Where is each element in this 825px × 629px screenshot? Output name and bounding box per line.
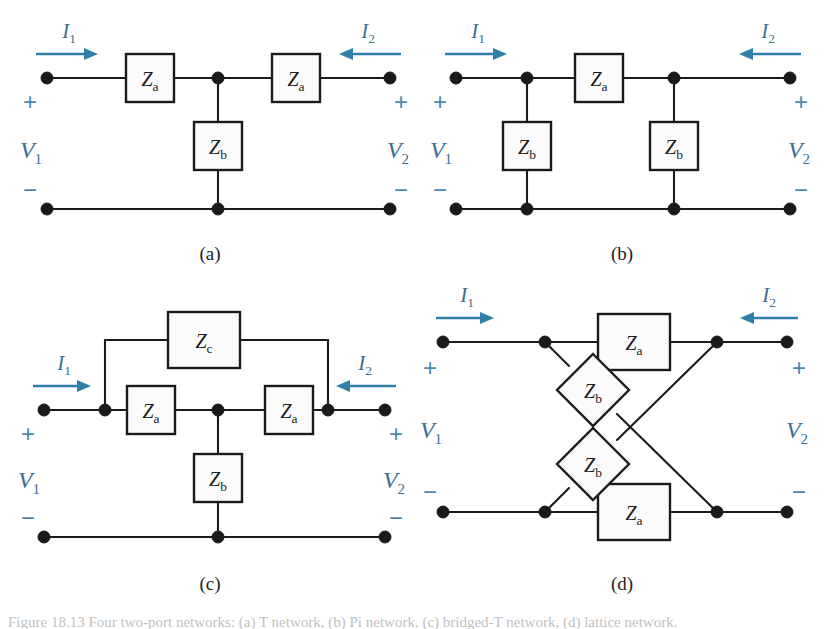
current-arrow-i2-head xyxy=(339,48,353,60)
polarity-minus-right: − xyxy=(794,176,808,203)
junction-node-left-top xyxy=(521,72,533,84)
current-arrow-i2-head xyxy=(740,312,754,324)
panel-caption-a: (a) xyxy=(180,243,240,265)
current-arrow-i1-head xyxy=(480,312,494,324)
voltage-label-v2: V2 xyxy=(387,137,409,167)
junction-node-bottom xyxy=(212,203,224,215)
panel-a-t-network: Za Za Zb I1 I2 + − V1 xyxy=(0,0,412,240)
polarity-minus-right: − xyxy=(792,478,806,505)
polarity-plus-right: + xyxy=(389,420,403,447)
panel-caption-d: (d) xyxy=(592,573,652,595)
current-label-i2: I2 xyxy=(760,19,775,46)
junction-node-bridge-right xyxy=(322,404,334,416)
current-label-i1: I1 xyxy=(56,351,71,378)
terminal-node-output-bottom[interactable] xyxy=(781,506,793,518)
terminal-node-input-top[interactable] xyxy=(437,336,449,348)
polarity-minus-left: − xyxy=(23,176,37,203)
current-label-i2: I2 xyxy=(360,19,375,46)
panel-caption-c: (c) xyxy=(180,573,240,595)
current-arrow-i1-head xyxy=(493,48,507,60)
voltage-label-v2: V2 xyxy=(786,417,808,447)
junction-node-bottom-right xyxy=(711,506,723,518)
panel-caption-b: (b) xyxy=(592,243,652,265)
polarity-plus-left: + xyxy=(23,88,37,115)
polarity-minus-right: − xyxy=(394,176,408,203)
terminal-node-output-bottom[interactable] xyxy=(379,531,391,543)
current-arrow-i2-head xyxy=(336,380,350,392)
junction-node-shunt-top xyxy=(212,404,224,416)
figure-sheet: Za Za Zb I1 I2 + − V1 xyxy=(0,0,825,629)
terminal-node-output-bottom[interactable] xyxy=(384,203,396,215)
terminal-node-input-bottom[interactable] xyxy=(450,203,462,215)
terminal-node-output-bottom[interactable] xyxy=(784,203,796,215)
junction-node-top-right xyxy=(711,336,723,348)
junction-node-top-left xyxy=(539,336,551,348)
polarity-minus-right: − xyxy=(389,504,403,531)
polarity-plus-left: + xyxy=(433,88,447,115)
terminal-node-input-bottom[interactable] xyxy=(437,506,449,518)
current-label-i1: I1 xyxy=(61,19,76,46)
junction-node-right-bottom xyxy=(668,203,680,215)
panel-b-pi-network: Za Zb Zb I1 I2 + xyxy=(412,0,825,240)
polarity-minus-left: − xyxy=(423,478,437,505)
current-arrow-i1-head xyxy=(84,48,98,60)
junction-node-bridge-left xyxy=(99,404,111,416)
terminal-node-output-top[interactable] xyxy=(384,72,396,84)
polarity-plus-right: + xyxy=(394,88,408,115)
terminal-node-output-top[interactable] xyxy=(379,404,391,416)
panel-c-bridged-t-network: Zc Za Za Zb xyxy=(0,282,412,564)
voltage-label-v2: V2 xyxy=(788,137,810,167)
junction-node-bottom-left xyxy=(539,506,551,518)
polarity-minus-left: − xyxy=(21,504,35,531)
polarity-plus-left: + xyxy=(423,354,437,381)
terminal-node-input-top[interactable] xyxy=(41,72,53,84)
current-label-i2: I2 xyxy=(761,283,776,310)
voltage-label-v2: V2 xyxy=(383,467,405,497)
junction-node-shunt-bottom xyxy=(212,531,224,543)
current-arrow-i2-head xyxy=(739,48,753,60)
panel-d-lattice-network: Za Za Zb Zb xyxy=(412,282,825,564)
voltage-label-v1: V1 xyxy=(20,137,42,167)
junction-node-top xyxy=(212,72,224,84)
figure-caption: Figure 18.13 Four two-port networks: (a)… xyxy=(8,612,820,629)
voltage-label-v1: V1 xyxy=(430,137,452,167)
polarity-plus-left: + xyxy=(21,420,35,447)
polarity-plus-right: + xyxy=(794,88,808,115)
current-label-i2: I2 xyxy=(357,351,372,378)
junction-node-right-top xyxy=(668,72,680,84)
polarity-plus-right: + xyxy=(792,354,806,381)
voltage-label-v1: V1 xyxy=(420,417,442,447)
terminal-node-input-bottom[interactable] xyxy=(41,203,53,215)
current-arrow-i1-head xyxy=(77,380,91,392)
current-label-i1: I1 xyxy=(459,283,474,310)
terminal-node-input-top[interactable] xyxy=(38,404,50,416)
current-label-i1: I1 xyxy=(470,19,485,46)
junction-node-left-bottom xyxy=(521,203,533,215)
polarity-minus-left: − xyxy=(433,176,447,203)
terminal-node-input-bottom[interactable] xyxy=(38,531,50,543)
terminal-node-input-top[interactable] xyxy=(450,72,462,84)
terminal-node-output-top[interactable] xyxy=(781,336,793,348)
voltage-label-v1: V1 xyxy=(18,467,40,497)
